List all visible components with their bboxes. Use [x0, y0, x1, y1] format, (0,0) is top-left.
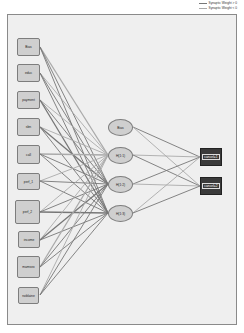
- hidden-node-label: H(1:2): [116, 183, 125, 187]
- input-node-payment: payment: [17, 91, 40, 109]
- output-node-cancel-2: cancel=2: [200, 177, 222, 195]
- hidden-node-bias: Bias: [108, 119, 133, 136]
- output-node-cancel-1: cancel=1: [200, 148, 222, 166]
- input-node-sbn: sbn: [17, 118, 40, 136]
- input-node-income: income: [18, 231, 40, 248]
- input-node-bias: Bias: [17, 38, 40, 56]
- input-node-label: call: [26, 153, 31, 157]
- hidden-node-label: H(1:3): [116, 212, 125, 216]
- input-node-noblaine: noblaine: [18, 287, 39, 304]
- input-node-label: Bias: [25, 45, 31, 49]
- input-node-perf-2: perf_2: [15, 200, 40, 224]
- hidden-node-label: Bias: [117, 126, 123, 130]
- hidden-node-label: H(1:1): [116, 154, 125, 158]
- output-node-label: cancel=2: [202, 183, 219, 189]
- input-node-label: noblaine: [22, 294, 34, 298]
- input-node-educ: educ: [17, 64, 40, 82]
- input-node-label: educ: [25, 71, 32, 75]
- input-node-mamsex: mamsex: [17, 256, 40, 278]
- input-node-label: sbn: [26, 125, 31, 129]
- input-node-perf-1: perf_1: [17, 173, 40, 190]
- input-node-label: perf_1: [24, 180, 33, 184]
- hidden-node-h1-1: H(1:1): [108, 147, 133, 164]
- input-node-label: mamsex: [22, 265, 34, 269]
- input-node-label: perf_2: [23, 210, 32, 214]
- input-node-label: income: [24, 238, 35, 242]
- output-node-label: cancel=1: [202, 154, 219, 160]
- hidden-node-h1-2: H(1:2): [108, 176, 133, 193]
- hidden-node-h1-3: H(1:3): [108, 205, 133, 222]
- input-node-label: payment: [22, 98, 35, 102]
- input-node-call: call: [17, 145, 40, 164]
